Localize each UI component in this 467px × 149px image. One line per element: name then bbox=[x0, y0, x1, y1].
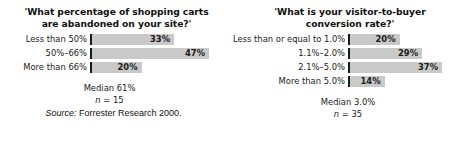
bar-track: 20% bbox=[92, 62, 233, 73]
category-label: 2.1%–5.0% bbox=[233, 62, 348, 73]
chart-title-line-2: conversion rate?' bbox=[243, 18, 457, 30]
bar-row: Less than or equal to 1.0% 20% bbox=[233, 34, 467, 45]
bar-row: More than 66% 20% bbox=[0, 62, 233, 73]
bar-value-label: 20% bbox=[118, 62, 142, 73]
median-annotation: Median 3.0% bbox=[233, 96, 463, 108]
chart-footer-shopping-carts: Median 61% n = 15 bbox=[0, 82, 233, 106]
chart-panel-shopping-carts: 'What percentage of shopping carts are a… bbox=[0, 0, 233, 149]
sample-size-value: = 35 bbox=[339, 109, 362, 119]
chart-title-line-1: 'What is your visitor-to-buyer bbox=[243, 6, 457, 18]
source-note: Source: Forrester Research 2000. bbox=[0, 107, 233, 119]
bar-row: 2.1%–5.0% 37% bbox=[233, 62, 467, 73]
sample-size-value: = 15 bbox=[101, 95, 124, 105]
plot-area-conversion-rate: Less than or equal to 1.0% 20% 1.1%–2.0%… bbox=[233, 34, 467, 90]
sample-size-annotation: n = 35 bbox=[233, 108, 463, 120]
bar-more-than-5-percent: 14% bbox=[350, 76, 385, 87]
bar-value-label: 47% bbox=[185, 48, 209, 59]
bar-row: Less than 50% 33% bbox=[0, 34, 233, 45]
sample-size-annotation: n = 15 bbox=[0, 94, 219, 106]
bar-track: 20% bbox=[350, 34, 467, 45]
bar-track: 47% bbox=[92, 48, 233, 59]
bar-track: 14% bbox=[350, 76, 467, 87]
bar-row: 1.1%–2.0% 29% bbox=[233, 48, 467, 59]
source-label: Source: bbox=[45, 108, 76, 118]
two-panel-bar-chart-figure: 'What percentage of shopping carts are a… bbox=[0, 0, 467, 149]
bar-value-label: 14% bbox=[361, 76, 385, 87]
bar-lte-1-percent: 20% bbox=[350, 34, 400, 45]
bar-value-label: 20% bbox=[376, 34, 400, 45]
category-label: Less than or equal to 1.0% bbox=[233, 34, 348, 45]
chart-title-conversion-rate: 'What is your visitor-to-buyer conversio… bbox=[233, 6, 467, 29]
chart-footer-conversion-rate: Median 3.0% n = 35 bbox=[233, 96, 467, 120]
bar-row: More than 5.0% 14% bbox=[233, 76, 467, 87]
source-text: Forrester Research 2000. bbox=[76, 108, 181, 118]
plot-area-shopping-carts: Less than 50% 33% 50%–66% 47% Mo bbox=[0, 34, 233, 76]
bar-1-to-2-percent: 29% bbox=[350, 48, 423, 59]
bar-value-label: 29% bbox=[398, 48, 422, 59]
bar-50-to-66: 47% bbox=[92, 48, 210, 59]
category-label: More than 66% bbox=[0, 62, 90, 73]
bar-value-label: 37% bbox=[418, 62, 442, 73]
bar-more-than-66: 20% bbox=[92, 62, 142, 73]
category-label: 1.1%–2.0% bbox=[233, 48, 348, 59]
bar-track: 33% bbox=[92, 34, 233, 45]
category-label: More than 5.0% bbox=[233, 76, 348, 87]
bar-track: 37% bbox=[350, 62, 467, 73]
bar-less-than-50: 33% bbox=[92, 34, 175, 45]
chart-title-shopping-carts: 'What percentage of shopping carts are a… bbox=[0, 6, 233, 29]
bar-value-label: 33% bbox=[150, 34, 174, 45]
chart-title-line-1: 'What percentage of shopping carts bbox=[10, 6, 223, 18]
chart-panel-conversion-rate: 'What is your visitor-to-buyer conversio… bbox=[233, 0, 467, 149]
chart-title-line-2: are abandoned on your site?' bbox=[10, 18, 223, 30]
bar-2-to-5-percent: 37% bbox=[350, 62, 443, 73]
median-annotation: Median 61% bbox=[0, 82, 219, 94]
category-label: 50%–66% bbox=[0, 48, 90, 59]
bar-row: 50%–66% 47% bbox=[0, 48, 233, 59]
category-label: Less than 50% bbox=[0, 34, 90, 45]
bar-track: 29% bbox=[350, 48, 467, 59]
